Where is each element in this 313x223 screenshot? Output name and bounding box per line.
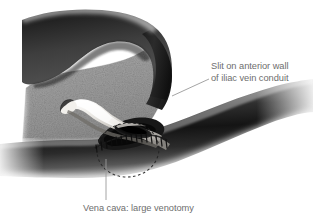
label-slit-line2: of iliac vein conduit <box>211 73 289 85</box>
surgical-illustration <box>0 0 313 223</box>
label-vena-cava-venotomy: Vena cava: large venotomy <box>83 203 194 215</box>
label-slit-on-anterior-wall: Slit on anterior wall of iliac vein cond… <box>211 61 289 84</box>
label-slit-line1: Slit on anterior wall <box>211 61 289 73</box>
